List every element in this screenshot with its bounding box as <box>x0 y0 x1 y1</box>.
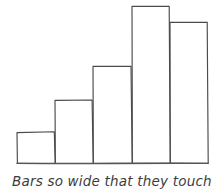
bar-3 <box>93 66 132 163</box>
bar-2 <box>55 100 93 163</box>
bar-4 <box>132 6 170 163</box>
bar-5 <box>170 22 208 163</box>
bar-group <box>17 6 208 163</box>
figure-canvas: Bars so wide that they touch <box>0 0 220 193</box>
histogram-drawing <box>0 0 220 193</box>
figure-caption: Bars so wide that they touch <box>12 169 212 193</box>
bar-1 <box>17 132 55 163</box>
